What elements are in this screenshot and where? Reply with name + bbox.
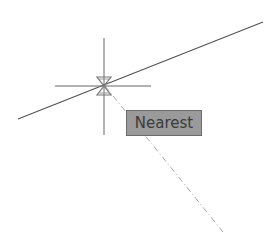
tracking-line (105, 86, 223, 232)
drawn-line[interactable] (18, 22, 263, 119)
snap-tooltip-label: Nearest (135, 114, 193, 132)
snap-tooltip: Nearest (126, 110, 202, 136)
drawing-canvas[interactable]: Nearest (0, 0, 273, 241)
